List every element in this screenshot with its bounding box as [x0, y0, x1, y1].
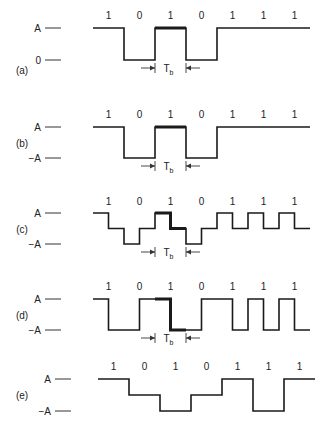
- bit-label: 1: [292, 196, 298, 207]
- bit-label: 1: [292, 281, 298, 292]
- tb-arrowhead-right: [186, 66, 191, 71]
- bit-label: 1: [111, 361, 117, 372]
- bit-label: 1: [168, 281, 174, 292]
- level-label-high: A: [34, 294, 41, 305]
- tb-arrowhead-right: [186, 250, 191, 255]
- tb-label: Tb: [163, 247, 173, 260]
- level-label-low: −A: [38, 406, 51, 417]
- tb-arrowhead-left: [150, 336, 155, 341]
- panel-label-a: (a): [16, 65, 28, 76]
- tb-arrowhead-left: [150, 164, 155, 169]
- bit-label: 1: [266, 361, 272, 372]
- bit-label: 1: [168, 109, 174, 120]
- bit-label: 1: [292, 10, 298, 21]
- bit-label: 1: [168, 196, 174, 207]
- bit-label: 0: [142, 361, 148, 372]
- waveform-c: [93, 213, 310, 244]
- panel-label-b: (b): [16, 138, 28, 149]
- bit-label: 1: [106, 109, 112, 120]
- panel-label-e: (e): [16, 390, 28, 401]
- level-label-low: −A: [28, 153, 41, 164]
- bit-label: 0: [137, 10, 143, 21]
- tb-arrowhead-right: [186, 164, 191, 169]
- bit-label: 1: [173, 361, 179, 372]
- bit-label: 1: [235, 361, 241, 372]
- line-coding-diagram: (a)A01010111Tb(b)A−A1010111Tb(c)A−A10101…: [0, 0, 322, 425]
- bit-label: 1: [261, 10, 267, 21]
- panel-label-d: (d): [16, 310, 28, 321]
- waveform-b: [93, 127, 310, 158]
- bit-label: 1: [106, 281, 112, 292]
- bit-label: 1: [168, 10, 174, 21]
- bit-label: 0: [199, 281, 205, 292]
- level-label-high: A: [34, 23, 41, 34]
- tb-label: Tb: [163, 333, 173, 346]
- tb-label: Tb: [163, 63, 173, 76]
- waveform-d: [93, 299, 310, 330]
- level-label-high: A: [34, 122, 41, 133]
- waveform-a: [93, 28, 310, 60]
- highlighted-bit-d: [155, 299, 186, 330]
- bit-label: 1: [230, 109, 236, 120]
- bit-label: 1: [261, 281, 267, 292]
- bit-label: 0: [199, 196, 205, 207]
- bit-label: 1: [106, 196, 112, 207]
- tb-arrowhead-left: [150, 66, 155, 71]
- waveform-e: [98, 379, 315, 411]
- tb-arrowhead-right: [186, 336, 191, 341]
- bit-label: 0: [204, 361, 210, 372]
- bit-label: 1: [230, 281, 236, 292]
- bit-label: 0: [137, 281, 143, 292]
- bit-label: 1: [230, 196, 236, 207]
- bit-label: 1: [292, 109, 298, 120]
- bit-label: 0: [137, 109, 143, 120]
- tb-arrowhead-left: [150, 250, 155, 255]
- level-label-low: 0: [35, 55, 41, 66]
- bit-label: 1: [297, 361, 303, 372]
- tb-label: Tb: [163, 161, 173, 174]
- bit-label: 0: [199, 109, 205, 120]
- bit-label: 0: [137, 196, 143, 207]
- bit-label: 1: [261, 196, 267, 207]
- level-label-low: −A: [28, 325, 41, 336]
- level-label-low: −A: [28, 239, 41, 250]
- panel-label-c: (c): [16, 224, 28, 235]
- bit-label: 1: [261, 109, 267, 120]
- bit-label: 1: [106, 10, 112, 21]
- level-label-high: A: [34, 208, 41, 219]
- level-label-high: A: [44, 374, 51, 385]
- bit-label: 0: [199, 10, 205, 21]
- highlighted-bit-c: [155, 213, 186, 229]
- bit-label: 1: [230, 10, 236, 21]
